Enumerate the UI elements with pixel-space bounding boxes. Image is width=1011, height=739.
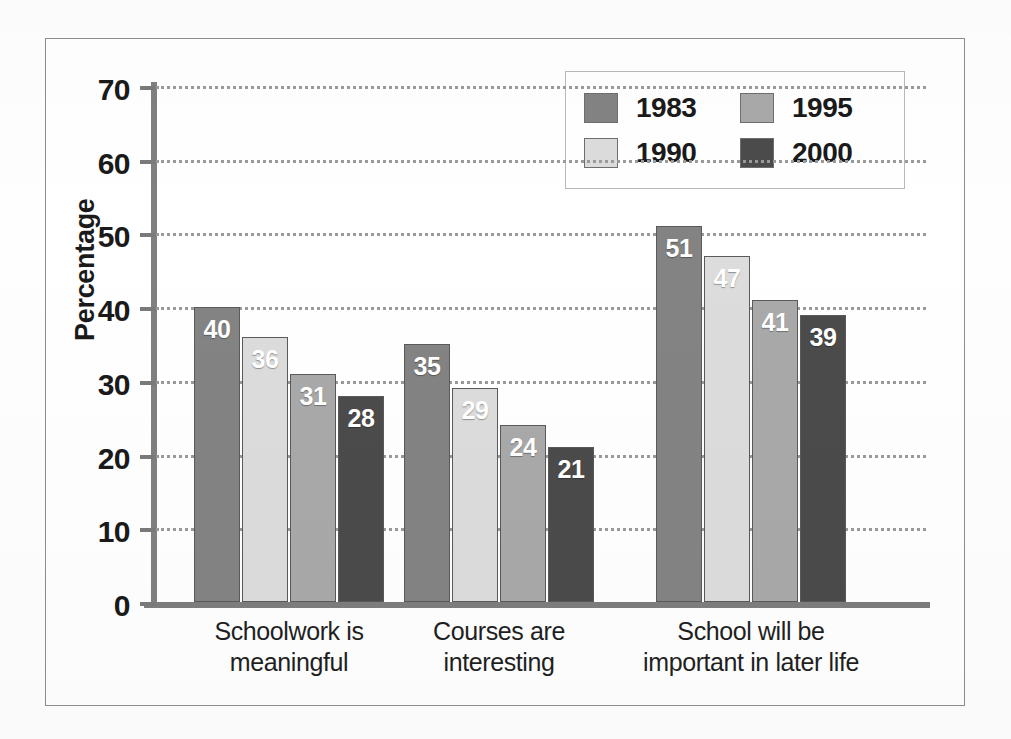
- x-axis-line: [144, 602, 930, 608]
- category-label-3: School will be important in later life: [586, 616, 916, 677]
- bar-1995-cat2[interactable]: 24: [500, 425, 546, 602]
- y-tick-label-40: 40: [98, 294, 130, 328]
- plot-area: 010203040506070 Percentage 4036312835292…: [156, 86, 926, 602]
- bar-1995-cat3[interactable]: 41: [752, 300, 798, 602]
- bar-1995-cat1[interactable]: 31: [290, 374, 336, 603]
- bar-value-label: 29: [453, 396, 497, 425]
- bar-value-label: 39: [801, 323, 845, 352]
- bar-value-label: 47: [705, 264, 749, 293]
- bar-group-3: 51474139: [656, 86, 846, 602]
- y-tick-label-30: 30: [98, 368, 130, 402]
- scanned-page: 1983 1995 1990 2000 010203040506070 Perc…: [0, 0, 1011, 739]
- y-tick-label-60: 60: [98, 147, 130, 181]
- bar-1983-cat1[interactable]: 40: [194, 307, 240, 602]
- bar-1983-cat3[interactable]: 51: [656, 226, 702, 602]
- bar-value-label: 28: [339, 404, 383, 433]
- bar-value-label: 31: [291, 382, 335, 411]
- bar-1990-cat3[interactable]: 47: [704, 256, 750, 602]
- y-tick-label-50: 50: [98, 220, 130, 254]
- bar-1990-cat1[interactable]: 36: [242, 337, 288, 602]
- y-tick-60: 60: [140, 160, 156, 164]
- bar-value-label: 41: [753, 308, 797, 337]
- y-tick-label-70: 70: [98, 73, 130, 107]
- bar-value-label: 35: [405, 352, 449, 381]
- y-tick-10: 10: [140, 528, 156, 532]
- chart-frame: 1983 1995 1990 2000 010203040506070 Perc…: [45, 38, 965, 706]
- y-tick-0: 0: [140, 602, 156, 606]
- y-axis-title: Percentage: [70, 198, 101, 341]
- bar-groups: 403631283529242151474139: [156, 86, 926, 602]
- bar-2000-cat3[interactable]: 39: [800, 315, 846, 602]
- bar-1983-cat2[interactable]: 35: [404, 344, 450, 602]
- bar-value-label: 21: [549, 455, 593, 484]
- bar-2000-cat1[interactable]: 28: [338, 396, 384, 602]
- bar-value-label: 24: [501, 433, 545, 462]
- y-tick-20: 20: [140, 455, 156, 459]
- bar-group-2: 35292421: [404, 86, 594, 602]
- y-tick-40: 40: [140, 307, 156, 311]
- bar-value-label: 51: [657, 234, 701, 263]
- bar-group-1: 40363128: [194, 86, 384, 602]
- y-tick-50: 50: [140, 233, 156, 237]
- y-tick-70: 70: [140, 86, 156, 90]
- bar-1990-cat2[interactable]: 29: [452, 388, 498, 602]
- bar-value-label: 40: [195, 315, 239, 344]
- bar-value-label: 36: [243, 345, 287, 374]
- y-tick-30: 30: [140, 381, 156, 385]
- y-tick-label-20: 20: [98, 442, 130, 476]
- bar-2000-cat2[interactable]: 21: [548, 447, 594, 602]
- y-tick-label-10: 10: [98, 515, 130, 549]
